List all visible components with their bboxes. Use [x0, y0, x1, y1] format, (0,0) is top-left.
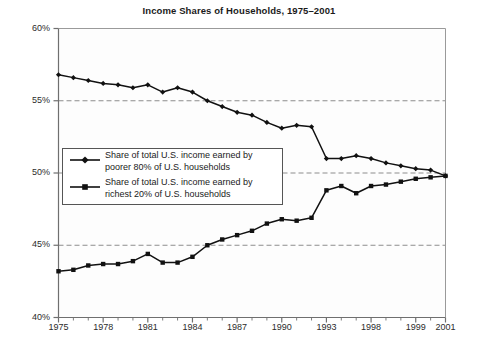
data-point	[101, 262, 105, 266]
chart-legend: Share of total U.S. income earned by poo…	[62, 148, 283, 205]
data-point	[339, 184, 343, 188]
data-point	[220, 237, 224, 241]
legend-label-poorer-80-line1: Share of total U.S. income earned by	[105, 150, 281, 162]
data-point	[414, 177, 418, 181]
legend-label-poorer-80-line2: poorer 80% of U.S. households	[105, 162, 281, 174]
x-axis-tick-label: 1975	[39, 322, 79, 332]
data-point	[369, 184, 373, 188]
x-axis-tick-label: 1998	[351, 322, 391, 332]
data-point	[205, 243, 209, 247]
data-point	[265, 221, 269, 225]
x-axis-tick-label: 1987	[217, 322, 257, 332]
data-point	[71, 268, 75, 272]
data-point	[280, 217, 284, 221]
legend-label-richest-20-line2: richest 20% of U.S. households	[105, 189, 281, 201]
legend-label-richest-20: Share of total U.S. income earned by ric…	[105, 177, 281, 200]
data-point	[131, 259, 135, 263]
y-axis-tick-label: 50%	[16, 167, 50, 177]
legend-label-richest-20-line1: Share of total U.S. income earned by	[105, 177, 281, 189]
legend-entry-richest-20: Share of total U.S. income earned by ric…	[63, 178, 284, 204]
data-point	[250, 229, 254, 233]
data-point	[309, 216, 313, 220]
chart-container: Income Shares of Households, 1975–2001 S…	[0, 0, 478, 356]
data-point	[399, 179, 403, 183]
data-point	[428, 175, 432, 179]
legend-label-poorer-80: Share of total U.S. income earned by poo…	[105, 150, 281, 173]
data-point	[160, 260, 164, 264]
data-point	[294, 218, 298, 222]
data-point	[146, 252, 150, 256]
legend-marker-diamond-icon	[70, 155, 100, 165]
x-axis-tick-label: 1981	[128, 322, 168, 332]
data-point	[175, 260, 179, 264]
x-axis-tick-label: 1990	[262, 322, 302, 332]
data-point	[354, 191, 358, 195]
y-axis-tick-label: 40%	[16, 312, 50, 322]
data-point	[324, 188, 328, 192]
x-axis-tick-label: 1984	[172, 322, 212, 332]
x-axis-tick-label: 2001	[426, 322, 466, 332]
data-point	[190, 255, 194, 259]
x-axis-tick-label: 1978	[83, 322, 123, 332]
legend-entry-poorer-80: Share of total U.S. income earned by poo…	[63, 151, 284, 177]
data-point	[116, 262, 120, 266]
y-axis-tick-label: 60%	[16, 23, 50, 33]
data-point	[235, 233, 239, 237]
data-point	[86, 263, 90, 267]
legend-marker-square-icon	[70, 182, 100, 192]
data-point	[443, 174, 447, 178]
data-point	[384, 182, 388, 186]
y-axis-tick-label: 45%	[16, 239, 50, 249]
y-axis-tick-label: 55%	[16, 95, 50, 105]
data-point	[56, 269, 60, 273]
x-axis-tick-label: 1993	[306, 322, 346, 332]
